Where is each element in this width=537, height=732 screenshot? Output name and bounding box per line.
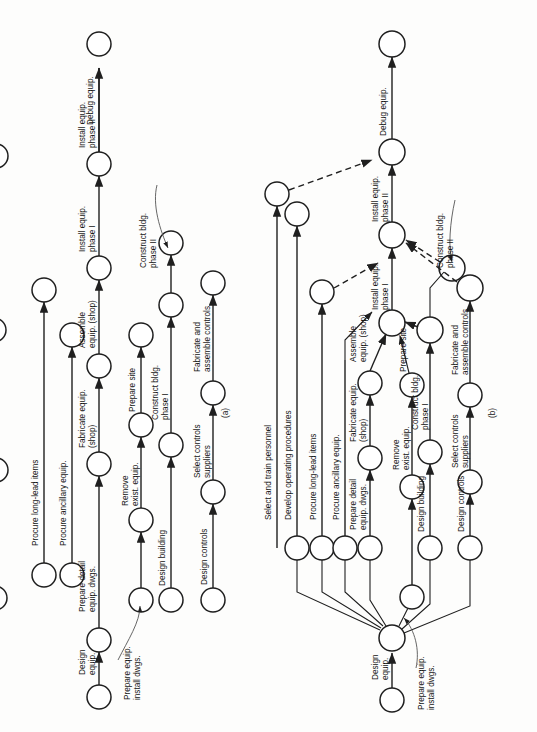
figa-node-site-prepared (129, 323, 153, 347)
figb-node-controls-start (458, 536, 482, 560)
figb-node-install-dwgs-done (400, 585, 424, 609)
figb-caption: (b) (488, 408, 497, 418)
diagram-canvas: Designequip. Prepare equip.install dwgs.… (0, 0, 537, 732)
figa-node-bldg-phase-i (159, 293, 183, 317)
figa-node-install-dwgs-start (129, 588, 153, 612)
figb-label-design-controls: Design controls (457, 476, 466, 532)
figa-label-design-building: Design building (158, 530, 167, 586)
figa-node-suppliers-selected (201, 381, 225, 405)
figb-label-prepare-detail-equip-dwgs: Prepare detailequip. dwgs. (349, 479, 368, 530)
figb-node-fabricated (358, 446, 382, 470)
figa-label-design-equip: Designequip. (78, 649, 97, 675)
figb-node-building-start (418, 536, 442, 560)
figa-node-equip-designed (87, 628, 111, 652)
figb-node-installed-ii (379, 222, 405, 248)
network-diagram-svg: Designequip. Prepare equip.install dwgs.… (0, 0, 537, 732)
figa-label-procure-ancillary-equip: Procure ancillary equip. (59, 460, 68, 546)
figa-label-prepare-detail-equip-dwgs: Prepare detailequip. dwgs. (78, 561, 97, 612)
figa-node-longlead-start (32, 563, 56, 587)
figa-label-procure-long-lead-items: Procure long-lead items (31, 460, 40, 546)
figa-node-building-start (159, 588, 183, 612)
figb-node-detail-dwgs-done (358, 536, 382, 560)
figa-node-exist-equip-removed (129, 413, 153, 437)
figb-node-longlead-end (310, 280, 334, 304)
figa-node-assembled (87, 256, 111, 280)
figa-label-prepare-site: Prepare site (128, 367, 137, 412)
figa-label-debug-equip: Debug equip. (86, 76, 95, 125)
figa-node-controls-start (201, 588, 225, 612)
figa-node-start-equip (87, 685, 111, 709)
figb-label-procure-long-lead-items: Procure long-lead items (309, 434, 318, 520)
figb-node-building-designed (418, 440, 442, 464)
figb-label-procure-ancillary-equip: Procure ancillary equip. (332, 434, 341, 520)
figb-node-ancillary-start (333, 536, 357, 560)
figa-node-building-designed (159, 433, 183, 457)
figb-node-bldg-phase-i (417, 317, 443, 343)
figa-node-fabricated (87, 354, 111, 378)
figb-node-controls-assembled (457, 275, 483, 301)
figb-node-project-end (379, 31, 405, 57)
figb-label-select-train-personnel: Select and train personnel (264, 425, 273, 520)
figb-node-start-equip (380, 688, 404, 712)
figb-label-prepare-site: Prepare site (399, 327, 408, 372)
figb-node-debugged (379, 139, 405, 165)
figb-node-assembled (358, 371, 382, 395)
figa-node-longlead-end (32, 278, 56, 302)
figb-node-opproc-end (285, 202, 309, 226)
figa-node-controls-designed (201, 480, 225, 504)
figb-label-develop-operating-procedures: Develop operating procedures (284, 410, 293, 520)
figb-node-suppliers-selected (458, 383, 482, 407)
figb-node-hub (379, 625, 405, 651)
figb-label-debug-equip: Debug equip. (379, 87, 388, 136)
figb-node-personnel-trained (265, 182, 289, 206)
figb-node-longlead-start (310, 536, 334, 560)
figa-node-controls-assembled (201, 271, 225, 295)
figa-label-design-controls: Design controls (200, 529, 209, 585)
figa-node-debugged (87, 32, 111, 56)
figa-node-install-dwgs-done (129, 508, 153, 532)
figa-caption: (a) (221, 408, 230, 418)
figb-label-design-building: Design building (417, 476, 426, 532)
figb-node-opproc-start (285, 536, 309, 560)
figa-node-installed-i (87, 152, 111, 176)
figa-node-detail-dwgs-done (87, 452, 111, 476)
figb-label-design-equip: Designequip. (371, 654, 390, 680)
